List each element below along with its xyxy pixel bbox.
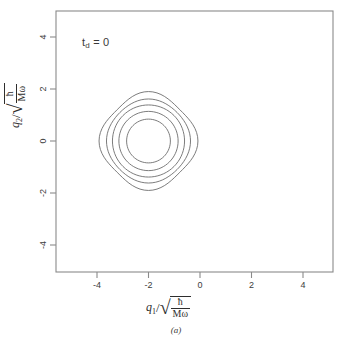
- y-tick-label-4: 4: [38, 30, 48, 44]
- axes-frame: [56, 11, 333, 272]
- x-tick-label-4: 4: [300, 280, 305, 290]
- y-axis-title: q2 / √ ħ Mω: [4, 83, 27, 128]
- x-axis-title: q1 / √ ħ Mω: [146, 296, 191, 319]
- x-axis-fraction-denominator: Mω: [171, 308, 190, 320]
- y-axis-ticks: [50, 37, 56, 245]
- sqrt-icon: √: [5, 103, 28, 114]
- x-tick-label-minus4: -4: [93, 280, 101, 290]
- sqrt-icon: √: [160, 297, 171, 320]
- x-tick-label-0: 0: [197, 280, 202, 290]
- x-tick-label-minus2: -2: [144, 280, 152, 290]
- x-axis-fraction-numerator: ħ: [177, 297, 184, 308]
- x-axis-fraction: ħ Mω: [170, 296, 191, 319]
- delay-time-annotation: td = 0: [82, 36, 109, 50]
- annotation-value: = 0: [93, 36, 109, 48]
- contour-figure: -4 -2 0 2 4 4 2 0 -2 -4 td = 0 q1 / √ ħ …: [0, 0, 344, 340]
- y-axis-fraction-denominator: Mω: [16, 84, 28, 103]
- y-axis-fraction-numerator: ħ: [5, 90, 16, 97]
- x-axis-variable: q1: [146, 300, 156, 316]
- y-axis-fraction: ħ Mω: [4, 83, 27, 104]
- contour-lines: [99, 92, 198, 191]
- y-axis-radical: √ ħ Mω: [4, 83, 27, 114]
- y-axis-variable-letter: q: [8, 122, 22, 128]
- y-tick-label-2: 2: [38, 82, 48, 96]
- y-tick-label-minus4: -4: [38, 238, 48, 252]
- x-axis-ticks: [97, 272, 303, 278]
- x-axis-radical: √ ħ Mω: [160, 296, 191, 319]
- contour-level-3: [112, 105, 184, 177]
- y-tick-label-minus2: -2: [38, 186, 48, 200]
- y-axis-variable: q2: [8, 118, 24, 128]
- y-axis-slash: /: [8, 114, 24, 118]
- annotation-subscript: d: [85, 41, 90, 50]
- contour-level-1: [127, 119, 171, 163]
- y-tick-label-0: 0: [38, 134, 48, 148]
- x-tick-label-2: 2: [249, 280, 254, 290]
- contour-level-2: [119, 111, 178, 170]
- y-axis-variable-subscript: 2: [15, 118, 24, 122]
- plot-canvas: [0, 0, 344, 340]
- panel-caption: (a): [171, 325, 182, 335]
- contour-level-5: [99, 92, 198, 191]
